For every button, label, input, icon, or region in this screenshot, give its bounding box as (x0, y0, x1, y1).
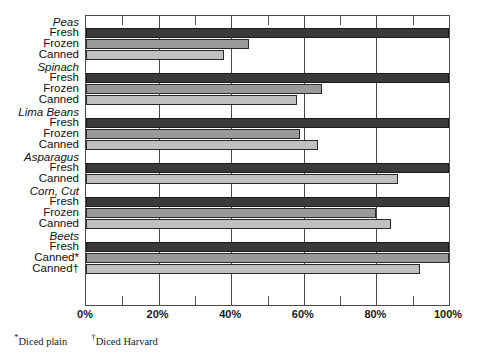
row-label: Canned (39, 172, 79, 184)
category-label-column: PeasFreshFrozenCannedSpinachFreshFrozenC… (0, 15, 84, 304)
x-tick-label: 100% (434, 308, 462, 320)
axis-tick (195, 296, 196, 305)
bar-lima-beans-frozen (86, 129, 300, 139)
bar-row (86, 197, 449, 207)
x-tick-label: 0% (77, 308, 93, 320)
x-tick-label: 40% (219, 308, 241, 320)
bar-corn-cut-canned (86, 219, 391, 229)
x-tick-label: 60% (292, 308, 314, 320)
bar-peas-canned (86, 50, 224, 60)
axis-tick (413, 16, 414, 25)
bar-row (86, 39, 449, 49)
axis-tick (268, 296, 269, 305)
bar-row (86, 174, 449, 184)
bar-row (86, 253, 449, 263)
bar-asparagus-canned (86, 174, 398, 184)
axis-tick (122, 16, 123, 25)
bar-corn-cut-fresh (86, 197, 449, 207)
bar-row (86, 242, 449, 252)
bar-row (86, 140, 449, 150)
bar-row (86, 28, 449, 38)
bar-beets-canned (86, 264, 420, 274)
bar-peas-frozen (86, 39, 249, 49)
footnote-text: Diced plain (19, 336, 68, 347)
bar-row (86, 118, 449, 128)
bar-lima-beans-canned (86, 140, 318, 150)
bar-row (86, 84, 449, 94)
bar-beets-frozen (86, 253, 449, 263)
row-label: Canned (39, 217, 79, 229)
bar-spinach-canned (86, 95, 297, 105)
bar-peas-fresh (86, 28, 449, 38)
row-label: Canned (39, 138, 79, 150)
x-tick-label: 80% (364, 308, 386, 320)
bar-chart: PeasFreshFrozenCannedSpinachFreshFrozenC… (0, 0, 486, 354)
axis-tick (413, 296, 414, 305)
bar-lima-beans-fresh (86, 118, 449, 128)
bar-spinach-frozen (86, 84, 322, 94)
x-tick-label: 20% (147, 308, 169, 320)
row-label: Canned† (32, 262, 79, 274)
axis-tick (122, 296, 123, 305)
bar-row (86, 208, 449, 218)
axis-tick (268, 16, 269, 25)
bar-row (86, 129, 449, 139)
bar-row (86, 264, 449, 274)
footnote: †Diced Harvard (91, 332, 158, 347)
bar-row (86, 163, 449, 173)
bar-row (86, 219, 449, 229)
axis-tick (340, 16, 341, 25)
bar-beets-fresh (86, 242, 449, 252)
row-label: Canned (39, 93, 79, 105)
footnotes: *Diced plain†Diced Harvard (14, 332, 158, 347)
bar-row (86, 73, 449, 83)
plot-area (85, 15, 450, 306)
bar-row (86, 95, 449, 105)
bar-row (86, 50, 449, 60)
footnote-text: Diced Harvard (96, 336, 158, 347)
bar-corn-cut-frozen (86, 208, 376, 218)
bar-spinach-fresh (86, 73, 449, 83)
axis-tick (340, 296, 341, 305)
axis-tick (195, 16, 196, 25)
bar-asparagus-fresh (86, 163, 449, 173)
row-label: Canned (39, 48, 79, 60)
footnote: *Diced plain (14, 332, 67, 347)
